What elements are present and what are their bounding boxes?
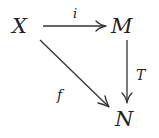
node-m: M [110, 14, 133, 38]
commutative-diagram: X M N i T f [0, 0, 159, 138]
label-f: f [56, 87, 65, 103]
label-t: T [136, 67, 147, 83]
node-n: N [114, 107, 134, 131]
arrow-t [122, 40, 132, 103]
arrow-f [40, 40, 109, 107]
label-i: i [73, 6, 77, 21]
node-x: X [10, 14, 28, 38]
arrow-i [43, 21, 106, 31]
